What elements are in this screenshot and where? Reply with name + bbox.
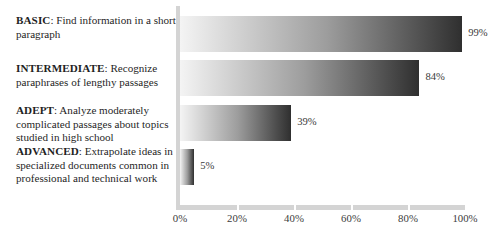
category-label-column: BASIC: Find information in a short parag…: [0, 0, 176, 243]
category-label-adept: ADEPT: Analyze moderately complicated pa…: [16, 104, 176, 145]
category-term-adept: ADEPT: [16, 104, 54, 116]
bar-value-label: 39%: [297, 116, 316, 127]
x-tick-notch: [465, 205, 467, 210]
bar-adept[interactable]: [180, 105, 291, 141]
bar-row: 5%: [180, 149, 254, 185]
category-term-intermediate: INTERMEDIATE: [16, 62, 105, 74]
x-axis-tick-labels: 0%20%40%60%80%100%: [176, 212, 503, 232]
category-label-intermediate: INTERMEDIATE: Recognize paraphrases of l…: [16, 62, 176, 89]
x-tick-label: 60%: [341, 212, 361, 224]
x-axis-line: [176, 205, 465, 210]
bar-value-label: 5%: [200, 160, 214, 171]
category-label-basic: BASIC: Find information in a short parag…: [16, 14, 176, 41]
category-term-advanced: ADVANCED: [16, 145, 79, 157]
bar-row: 39%: [180, 105, 351, 141]
x-tick-label: 0%: [173, 212, 187, 224]
bar-intermediate[interactable]: [180, 60, 419, 96]
category-label-advanced: ADVANCED: Extrapolate ideas in specializ…: [16, 145, 176, 186]
bar-basic[interactable]: [180, 16, 462, 52]
bar-row: 84%: [180, 60, 479, 96]
bar-value-label: 99%: [468, 27, 487, 38]
plot-area: 99%84%39%5% 0%20%40%60%80%100%: [176, 6, 503, 243]
x-tick-label: 40%: [284, 212, 304, 224]
x-tick-label: 20%: [227, 212, 247, 224]
chart-figure: BASIC: Find information in a short parag…: [0, 0, 503, 243]
x-tick-notch: [351, 205, 353, 210]
bar-value-label: 84%: [425, 71, 444, 82]
bar-row: 99%: [180, 16, 503, 52]
x-tick-label: 80%: [398, 212, 418, 224]
x-tick-notch: [237, 205, 239, 210]
x-tick-notch: [408, 205, 410, 210]
category-term-basic: BASIC: [16, 14, 50, 26]
x-tick-label: 100%: [452, 212, 477, 224]
bar-advanced[interactable]: [180, 149, 194, 185]
x-tick-notch: [294, 205, 296, 210]
